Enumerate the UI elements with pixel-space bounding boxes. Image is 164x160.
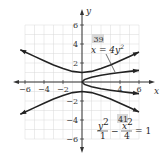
arrow-head-icon	[133, 52, 139, 57]
eq41-rhs: = 1	[135, 126, 151, 136]
eq41-den2: 4	[124, 131, 130, 141]
y-axis-label: y	[85, 6, 92, 16]
y-tick-label: 4	[73, 40, 78, 49]
y-tick-label: −6	[66, 135, 78, 144]
x-tick-label: −6	[19, 85, 31, 94]
x-axis-label: x	[154, 86, 159, 96]
hyperbola-upper-branch	[20, 50, 139, 73]
graph: x y −6−4−246642−2−4−6 39 x = 4y2 41 y 2 …	[0, 0, 164, 160]
x-axis-arrow-left-icon	[13, 80, 19, 84]
y-axis-arrow-down-icon	[80, 147, 84, 153]
equation-39: x = 4y2	[91, 43, 124, 55]
y-tick-label: 2	[73, 59, 78, 68]
x-axis-arrow-right-icon	[149, 80, 155, 84]
eq39-lhs: x = 4y	[91, 45, 121, 55]
eq41-den1: 1	[100, 131, 106, 141]
eq41-exp2: 2	[127, 117, 133, 127]
eq41-exp1: 2	[103, 117, 109, 127]
y-tick-label: 6	[73, 21, 78, 30]
arrow-head-icon	[133, 107, 139, 112]
x-tick-label: 4	[117, 85, 122, 94]
x-tick-label: −4	[38, 85, 50, 94]
hyperbola-lower-branch	[20, 92, 139, 115]
badge-39-text: 39	[94, 35, 104, 44]
y-tick-label: −4	[66, 116, 78, 125]
annotation-39: 39 x = 4y2	[91, 34, 124, 55]
annotation-41: 41 y 2 1 − x 2 4 = 1	[97, 114, 151, 141]
y-tick-label: −2	[66, 97, 78, 106]
eq41-minus: −	[111, 126, 119, 136]
eq39-exp: 2	[119, 43, 124, 50]
x-tick-label: −2	[57, 85, 69, 94]
y-axis-arrow-up-icon	[80, 9, 84, 15]
